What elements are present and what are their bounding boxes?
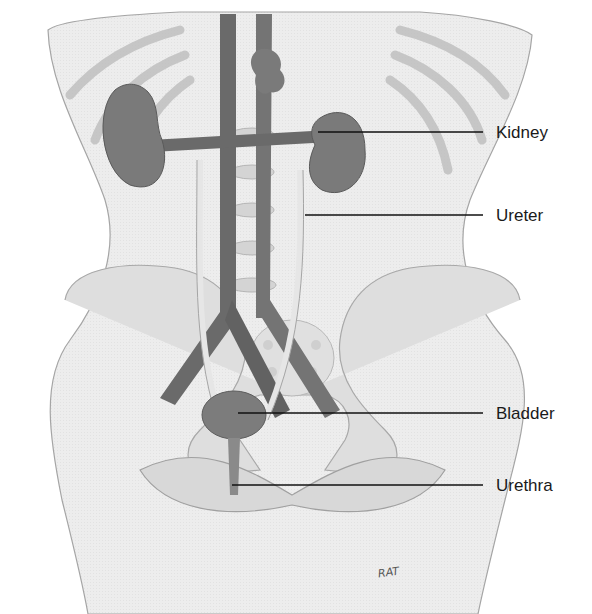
urethra xyxy=(228,438,240,495)
label-bladder: Bladder xyxy=(496,405,555,422)
label-urethra: Urethra xyxy=(496,477,553,494)
kidney-right xyxy=(309,113,365,193)
label-ureter: Ureter xyxy=(496,207,543,224)
label-kidney: Kidney xyxy=(496,124,548,141)
bladder xyxy=(202,391,266,439)
urinary-system-illustration xyxy=(0,0,592,614)
